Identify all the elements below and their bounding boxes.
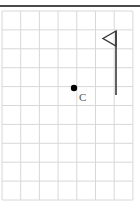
point-label-C: C [79, 92, 86, 103]
plotted-points [71, 85, 77, 91]
diagram-canvas: C [0, 0, 140, 215]
flag-pennant-icon [103, 31, 116, 46]
flag [103, 31, 116, 95]
point-marker-C [71, 85, 77, 91]
figure-layer [0, 0, 140, 215]
